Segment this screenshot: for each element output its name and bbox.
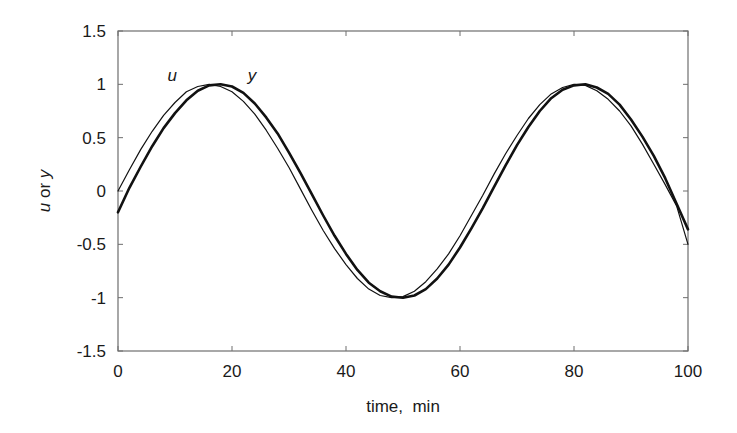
series-y-line bbox=[118, 84, 688, 297]
x-axis-tick-labels: 020406080100 bbox=[113, 362, 702, 381]
axis-ticks bbox=[118, 31, 688, 351]
curve-label-u: u bbox=[167, 66, 177, 85]
y-axis-tick-labels: 1.510.50-0.5-1-1.5 bbox=[77, 22, 106, 361]
curve-labels: uy bbox=[167, 66, 257, 85]
x-tick-label: 80 bbox=[565, 362, 584, 381]
x-tick-label: 0 bbox=[113, 362, 122, 381]
y-tick-label: 0 bbox=[97, 182, 106, 201]
x-tick-label: 20 bbox=[223, 362, 242, 381]
x-tick-label: 60 bbox=[451, 362, 470, 381]
curve-label-y: y bbox=[247, 66, 258, 85]
data-curves bbox=[118, 84, 688, 297]
line-chart: 020406080100 1.510.50-0.5-1-1.5 uy time,… bbox=[0, 0, 737, 433]
x-tick-label: 100 bbox=[674, 362, 702, 381]
y-tick-label: -0.5 bbox=[77, 235, 106, 254]
y-tick-label: 1.5 bbox=[82, 22, 106, 41]
x-tick-label: 40 bbox=[337, 362, 356, 381]
y-tick-label: 0.5 bbox=[82, 129, 106, 148]
y-axis-title: u or y bbox=[35, 168, 54, 212]
y-tick-label: -1 bbox=[91, 289, 106, 308]
x-axis-title: time, min bbox=[366, 397, 440, 416]
plot-border bbox=[118, 31, 688, 351]
y-tick-label: 1 bbox=[97, 75, 106, 94]
series-u-line bbox=[118, 84, 688, 297]
y-tick-label: -1.5 bbox=[77, 342, 106, 361]
plot-frame bbox=[118, 31, 688, 351]
